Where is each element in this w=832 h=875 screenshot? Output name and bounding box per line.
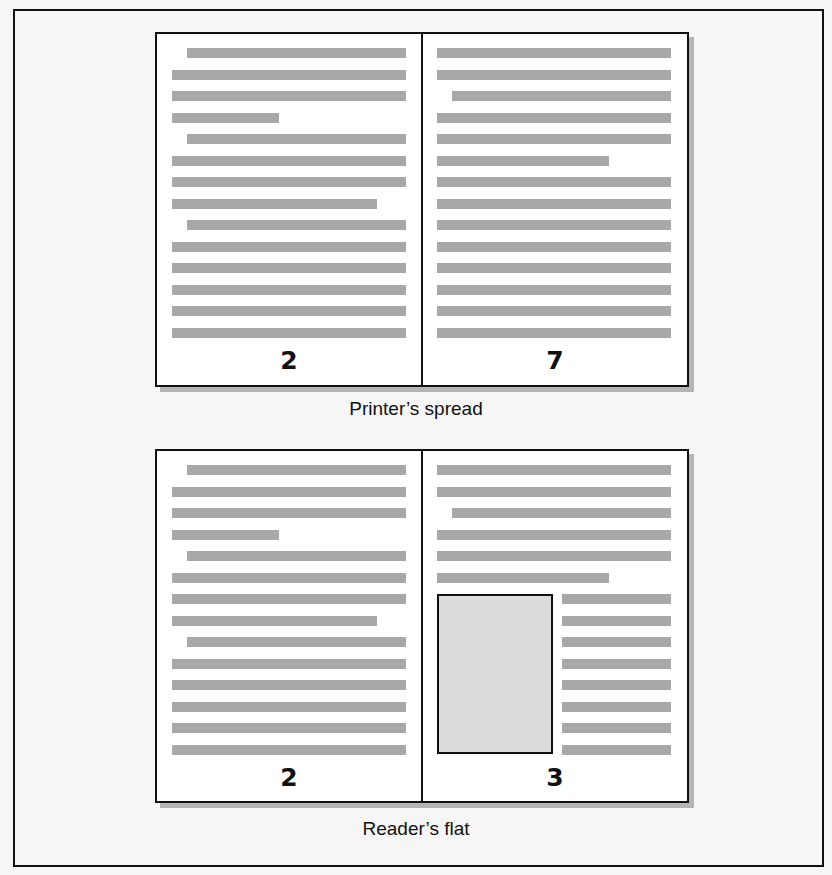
text-line	[172, 91, 406, 101]
text-line	[172, 242, 406, 252]
text-line	[437, 465, 671, 475]
text-line	[562, 745, 671, 755]
page-number-left: 2	[157, 346, 421, 375]
text-line	[437, 530, 671, 540]
text-line	[172, 487, 406, 497]
page-number-right: 3	[423, 763, 687, 792]
text-line	[172, 156, 406, 166]
text-line	[172, 306, 406, 316]
caption-readers-flat: Reader’s flat	[0, 818, 832, 840]
text-line	[187, 134, 406, 144]
text-line	[187, 551, 406, 561]
text-line	[437, 113, 671, 123]
text-line	[452, 91, 671, 101]
page-number-right: 7	[423, 346, 687, 375]
text-line	[172, 199, 377, 209]
spine-divider	[421, 451, 423, 801]
readers-flat: 2 3	[155, 449, 689, 803]
text-line	[562, 637, 671, 647]
text-line	[172, 594, 406, 604]
text-line	[437, 263, 671, 273]
text-line	[437, 134, 671, 144]
text-line	[437, 48, 671, 58]
text-line	[562, 680, 671, 690]
text-line	[187, 220, 406, 230]
text-line	[172, 263, 406, 273]
text-line	[437, 551, 671, 561]
text-line	[172, 659, 406, 669]
text-line	[172, 680, 406, 690]
text-line	[437, 242, 671, 252]
text-line	[187, 48, 406, 58]
text-line	[172, 285, 406, 295]
text-line	[437, 177, 671, 187]
printers-spread: 2 7	[155, 32, 689, 387]
text-line	[437, 328, 671, 338]
text-line	[172, 616, 377, 626]
text-line	[452, 508, 671, 518]
text-line	[172, 328, 406, 338]
text-line	[437, 70, 671, 80]
text-line	[437, 285, 671, 295]
text-line	[437, 487, 671, 497]
text-line	[562, 702, 671, 712]
text-line	[562, 659, 671, 669]
text-line	[172, 177, 406, 187]
text-line	[172, 723, 406, 733]
text-line	[437, 156, 609, 166]
caption-printers-spread: Printer’s spread	[0, 398, 832, 420]
text-line	[187, 637, 406, 647]
text-line	[172, 573, 406, 583]
text-line	[562, 723, 671, 733]
text-line	[172, 113, 279, 123]
text-line	[437, 199, 671, 209]
page-number-left: 2	[157, 763, 421, 792]
text-line	[172, 508, 406, 518]
text-line	[437, 306, 671, 316]
spine-divider	[421, 34, 423, 385]
image-placeholder-box	[437, 594, 553, 754]
text-line	[437, 573, 609, 583]
text-line	[172, 530, 279, 540]
text-line	[172, 70, 406, 80]
text-line	[187, 465, 406, 475]
text-line	[172, 702, 406, 712]
text-line	[437, 220, 671, 230]
text-line	[562, 616, 671, 626]
text-line	[172, 745, 406, 755]
text-line	[562, 594, 671, 604]
